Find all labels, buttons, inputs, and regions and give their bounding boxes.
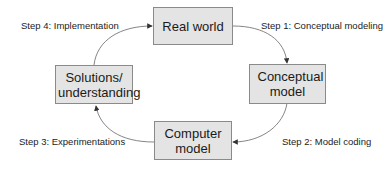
node-solutions-label: Solutions/ understanding (58, 70, 130, 100)
node-computer-model: Computer model (154, 121, 232, 160)
step1-label: Step 1: Conceptual modeling (261, 20, 383, 31)
node-conceptual-model-label: Conceptual model (258, 69, 318, 99)
step2-label: Step 2: Model coding (282, 136, 371, 147)
arrow-step2 (233, 103, 287, 142)
arrow-step1 (233, 26, 287, 63)
step3-label: Step 3: Experimentations (19, 136, 125, 147)
arrow-step4 (94, 26, 152, 65)
node-conceptual-model: Conceptual model (249, 64, 326, 104)
node-solutions-understanding: Solutions/ understanding (55, 65, 133, 104)
node-real-world-label: Real world (162, 19, 223, 34)
step4-label: Step 4: Implementation (21, 20, 119, 31)
node-computer-model-label: Computer model (163, 126, 223, 156)
node-real-world: Real world (153, 7, 233, 45)
